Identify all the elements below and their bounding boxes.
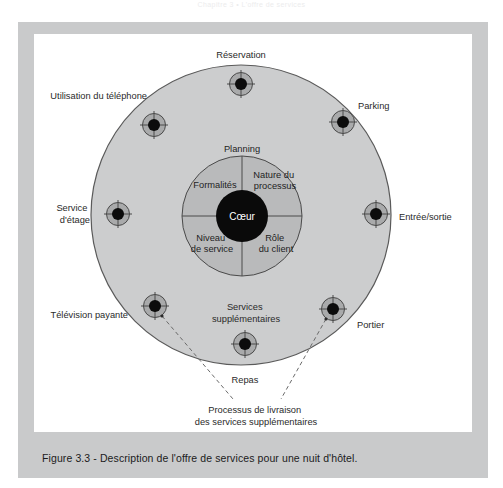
service-label-television-payante: Télévision payante: [50, 310, 128, 320]
figure-page: Chapitre 3 • L'offre de services Plan: [0, 0, 503, 488]
service-label-entree-sortie: Entrée/sortie: [399, 212, 452, 222]
service-label-parking: Parking: [358, 101, 390, 111]
quadrant-label-niveau-de-service: Niveau de service: [191, 233, 233, 254]
figure-caption: Figure 3.3 - Description de l'offre de s…: [42, 452, 357, 464]
quadrant-label-nature-du-processus: Nature du processus: [253, 170, 296, 191]
annotation-processus-de-livraison: Processus de livraison des services supp…: [195, 405, 318, 427]
service-label-reservation: Réservation: [216, 50, 266, 60]
core-label: Cœur: [229, 211, 255, 222]
leader-anchor-right: [324, 317, 327, 320]
service-label-portier: Portier: [357, 320, 384, 330]
quadrant-label-formalites: Formalités: [193, 180, 237, 190]
service-offering-diagram: Planning Cœur Formalités Nature du proce…: [0, 0, 503, 488]
planning-label: Planning: [224, 144, 260, 154]
service-label-repas: Repas: [232, 375, 259, 385]
leader-anchor-left: [160, 314, 163, 317]
figure-caption-band: Figure 3.3 - Description de l'offre de s…: [18, 442, 488, 478]
service-label-service-d-etage: Service d'étage: [56, 203, 90, 225]
service-label-utilisation-du-telephone: Utilisation du téléphone: [50, 91, 147, 101]
